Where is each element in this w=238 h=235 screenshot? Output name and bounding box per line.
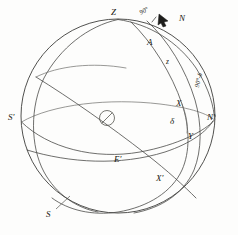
observer-diagonal-icon (102, 113, 113, 124)
label-declination: δ (170, 117, 174, 126)
label-zenith-distance: z (166, 58, 169, 66)
label-north-prime: Nʹ (207, 113, 215, 122)
label-zenith: Z (111, 8, 116, 17)
oblique-great-circle-back (36, 65, 126, 77)
label-east-prime: Eʹ (114, 155, 121, 164)
label-north-point: N (179, 14, 185, 23)
horizon-circle-back (22, 102, 215, 122)
figure-canvas (0, 0, 238, 235)
oblique-great-circle (36, 77, 196, 198)
right-angle-tick (152, 17, 156, 22)
hour-circle-through-y (134, 21, 200, 213)
label-body: X (176, 99, 182, 108)
celestial-sphere-figure: Z 90° N A z 90°-δ X δ Nʹ Y Sʹ Eʹ Xʹ S (0, 0, 238, 235)
horizon-circle-front (22, 120, 215, 154)
meridian-circle-left (34, 20, 119, 213)
label-south-prime: Sʹ (8, 113, 14, 122)
vertical-circle-through-body (52, 22, 188, 213)
label-body-prime: Xʹ (156, 174, 163, 183)
label-south-point: S (46, 210, 51, 219)
label-azimuth: A (147, 38, 153, 47)
label-foot-y: Y (188, 132, 193, 141)
arrow-pointer-icon (158, 14, 168, 27)
